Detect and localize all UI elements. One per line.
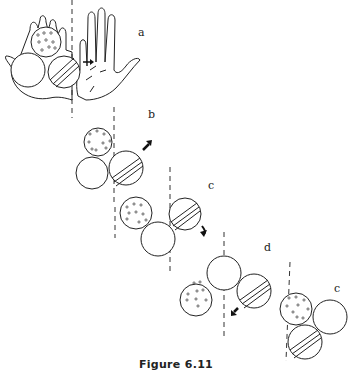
right-hand-icon [77, 8, 140, 100]
striped-ball [48, 56, 80, 88]
dotted-ball [31, 27, 61, 57]
striped-ball [288, 325, 322, 359]
figure-caption: Figure 6.11 [0, 358, 352, 371]
panel-label-a: a [138, 26, 145, 39]
plain-ball [141, 222, 175, 256]
arrow-curved-down-icon [200, 230, 207, 237]
panel-label-c: c [208, 179, 214, 192]
striped-ball [237, 274, 271, 308]
panel-a: a [5, 0, 145, 118]
plain-ball [313, 300, 347, 334]
panel-label-d: d [264, 241, 271, 254]
panel-label-b: b [148, 108, 155, 121]
palm-creases [86, 66, 106, 92]
panel-b: b [76, 107, 155, 205]
panel-d: d [180, 232, 271, 336]
arrow-right-icon [90, 59, 94, 65]
figure-diagram: a b [0, 0, 352, 381]
panel-c-final: c [280, 262, 347, 361]
plain-ball [76, 157, 108, 189]
plain-ball [207, 256, 241, 290]
plain-ball [11, 53, 45, 87]
panel-label-c-final: c [334, 282, 340, 295]
